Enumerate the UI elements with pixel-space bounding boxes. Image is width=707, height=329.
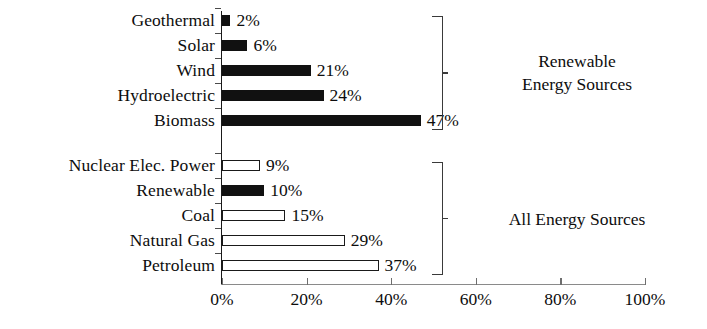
bar-wind	[222, 65, 311, 76]
bar-value-coal: 15%	[291, 207, 323, 225]
group-label-all-energy-sources: All Energy Sources	[462, 207, 692, 230]
category-label-nuclear-elec-power: Nuclear Elec. Power	[69, 157, 215, 175]
bar-value-geothermal: 2%	[236, 12, 259, 30]
bar-biomass	[222, 115, 421, 126]
bar-value-nuclear-elec-power: 9%	[266, 157, 289, 175]
bar-renewable	[222, 185, 264, 196]
x-axis-tick	[560, 278, 561, 285]
bar-geothermal	[222, 15, 230, 26]
category-label-solar: Solar	[178, 37, 215, 55]
x-axis-line	[221, 284, 645, 285]
y-axis-tick	[215, 108, 221, 109]
energy-sources-bar-chart: GeothermalSolarWindHydroelectricBiomassN…	[0, 0, 707, 329]
bar-value-natural-gas: 29%	[351, 232, 383, 250]
y-axis-tick	[215, 8, 221, 9]
y-axis-tick	[215, 228, 221, 229]
x-axis-tick-label: 0%	[210, 291, 233, 309]
bar-value-petroleum: 37%	[385, 257, 417, 275]
category-label-coal: Coal	[182, 207, 215, 225]
y-axis-tick	[215, 153, 221, 154]
bar-value-wind: 21%	[317, 62, 349, 80]
bar-solar	[222, 40, 247, 51]
bar-value-solar: 6%	[253, 37, 276, 55]
y-axis-tick	[215, 83, 221, 84]
x-axis-tick-label: 20%	[291, 291, 323, 309]
x-axis-tick	[307, 278, 308, 285]
x-axis-tick	[391, 278, 392, 285]
category-label-renewable: Renewable	[136, 182, 215, 200]
bar-coal	[222, 210, 285, 221]
category-label-biomass: Biomass	[154, 112, 215, 130]
x-axis-tick-label: 60%	[460, 291, 492, 309]
x-axis-tick	[645, 278, 646, 285]
bar-natural-gas	[222, 235, 345, 246]
category-label-petroleum: Petroleum	[142, 257, 215, 275]
bracket-center-tick	[442, 218, 448, 220]
category-label-hydroelectric: Hydroelectric	[118, 87, 216, 105]
bar-hydroelectric	[222, 90, 324, 101]
category-label-geothermal: Geothermal	[131, 12, 215, 30]
bar-petroleum	[222, 260, 379, 271]
y-axis-tick	[215, 178, 221, 179]
bar-nuclear-elec-power	[222, 160, 260, 171]
category-label-natural-gas: Natural Gas	[130, 232, 215, 250]
x-axis-tick-label: 80%	[544, 291, 576, 309]
x-axis-tick	[222, 278, 223, 285]
x-axis-tick-label: 100%	[625, 291, 666, 309]
y-axis-tick	[215, 58, 221, 59]
x-axis-tick	[476, 278, 477, 285]
category-label-wind: Wind	[176, 62, 215, 80]
bar-value-renewable: 10%	[270, 182, 302, 200]
group-bracket-renewable-energy-sources	[432, 16, 443, 130]
group-label-renewable-energy-sources: Renewable Energy Sources	[462, 50, 692, 96]
y-axis-tick	[215, 33, 221, 34]
bar-value-hydroelectric: 24%	[330, 87, 362, 105]
y-axis-tick	[215, 253, 221, 254]
y-axis-tick	[215, 203, 221, 204]
x-axis-tick-label: 40%	[375, 291, 407, 309]
bracket-center-tick	[442, 72, 448, 74]
group-bracket-all-energy-sources	[432, 162, 443, 275]
